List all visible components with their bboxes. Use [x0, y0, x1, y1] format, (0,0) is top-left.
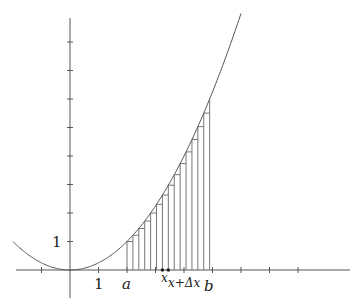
label-x-plus-delta-x: x+Δx [168, 276, 200, 290]
parabola-curve [13, 14, 241, 271]
x-tick-label-1: 1 [94, 275, 104, 293]
label-a: a [122, 275, 131, 293]
y-tick-label-1: 1 [52, 233, 62, 251]
label-x: x [161, 271, 168, 285]
label-b: b [204, 277, 214, 295]
riemann-sum-diagram: 1 1 a x x+Δx b [0, 0, 360, 305]
